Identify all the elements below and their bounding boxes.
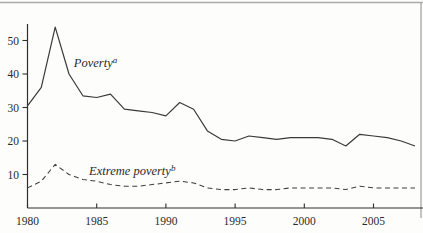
chart-figure: 1020304050198019851990199520002005Povert…	[0, 0, 423, 233]
x-tick-label: 1995	[224, 215, 247, 227]
chart-canvas: 1020304050198019851990199520002005Povert…	[0, 0, 423, 233]
axes	[28, 24, 423, 208]
y-tick-label: 10	[8, 169, 20, 181]
y-tick-label: 30	[8, 102, 20, 114]
y-tick-label: 20	[8, 135, 20, 147]
extreme-poverty-line	[28, 164, 416, 189]
x-tick-label: 1985	[85, 215, 108, 227]
poverty-line	[28, 27, 416, 146]
x-tick-label: 1980	[16, 215, 39, 227]
extreme-poverty-label: Extreme povertyb	[88, 163, 176, 178]
x-tick-label: 1990	[154, 215, 177, 227]
x-tick-label: 2005	[362, 215, 385, 227]
poverty-label: Povertya	[73, 55, 118, 70]
y-tick-label: 50	[8, 35, 20, 47]
x-tick-label: 2000	[293, 215, 316, 227]
y-tick-label: 40	[8, 68, 20, 80]
